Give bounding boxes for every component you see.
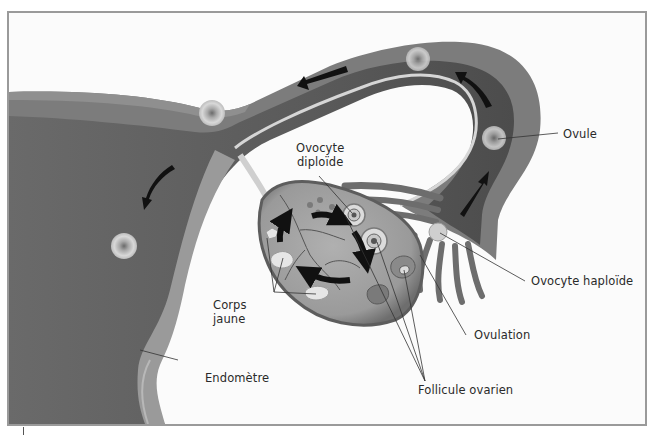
label-ovocyte-diploide: Ovocyte diploïde [296,141,344,169]
label-ovule: Ovule [563,127,597,141]
released-oocyte [429,223,447,241]
label-corps-jaune: Corps jaune [213,298,247,326]
crop-mark [23,427,24,435]
label-line: Ovocyte [296,141,344,155]
label-endometre: Endomètre [205,371,269,385]
reproductive-system-illustration [0,0,655,436]
label-ovocyte-haploide: Ovocyte haploïde [531,274,633,288]
label-line: Corps [213,298,247,312]
label-line: jaune [213,312,247,326]
label-line: diploïde [296,155,344,169]
label-ovulation: Ovulation [474,328,530,342]
ovarian-ligament [240,155,268,200]
label-follicule-ovarien: Follicule ovarien [418,383,513,397]
follicle-ring-1 [343,204,365,226]
